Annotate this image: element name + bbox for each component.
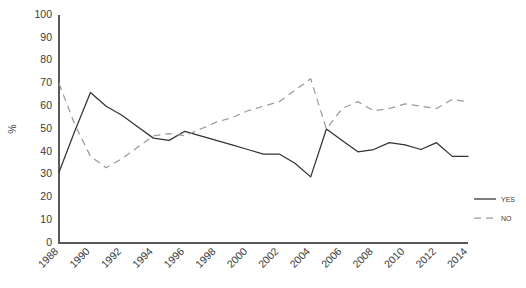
legend-label-yes: Yes: [501, 193, 515, 204]
x-tick-label: 1996: [161, 245, 186, 270]
x-tick-label: 1992: [98, 245, 123, 270]
y-tick-label: 90: [40, 31, 52, 43]
axis-lines: [59, 15, 468, 243]
series-line-yes: [59, 93, 468, 177]
y-tick-label: 40: [40, 145, 52, 157]
x-axis: 1988199019921994199619982000200220042006…: [35, 245, 469, 270]
x-tick-label: 2000: [224, 245, 249, 270]
x-tick-label: 2002: [256, 245, 281, 270]
y-tick-label: 20: [40, 190, 52, 202]
x-tick-label: 1990: [67, 245, 92, 270]
x-tick-label: 2014: [444, 245, 469, 270]
y-tick-label: 100: [34, 8, 52, 20]
y-axis: 1009080706050403020100: [34, 8, 52, 248]
x-tick-label: 1998: [193, 245, 218, 270]
legend-label-no: No: [501, 212, 512, 223]
y-axis-title: %: [6, 124, 18, 133]
y-tick-label: 10: [40, 213, 52, 225]
chart-legend: YesNo: [474, 193, 515, 223]
x-tick-label: 1994: [130, 245, 155, 270]
x-tick-label: 2012: [413, 245, 438, 270]
line-chart-figure: 1009080706050403020100 19881990199219941…: [0, 0, 526, 288]
y-tick-label: 50: [40, 122, 52, 134]
x-tick-label: 2010: [381, 245, 406, 270]
data-series-group: [59, 79, 468, 177]
x-tick-label: 2004: [287, 245, 312, 270]
axis-frame: [59, 15, 468, 243]
x-tick-label: 2008: [350, 245, 375, 270]
y-tick-label: 30: [40, 167, 52, 179]
y-tick-label: 80: [40, 53, 52, 65]
x-tick-label: 2006: [319, 245, 344, 270]
x-tick-label: 1988: [35, 245, 60, 270]
y-axis-title-label: %: [6, 124, 18, 133]
chart-canvas: 1009080706050403020100 19881990199219941…: [0, 0, 526, 288]
y-tick-label: 60: [40, 99, 52, 111]
y-tick-label: 70: [40, 76, 52, 88]
